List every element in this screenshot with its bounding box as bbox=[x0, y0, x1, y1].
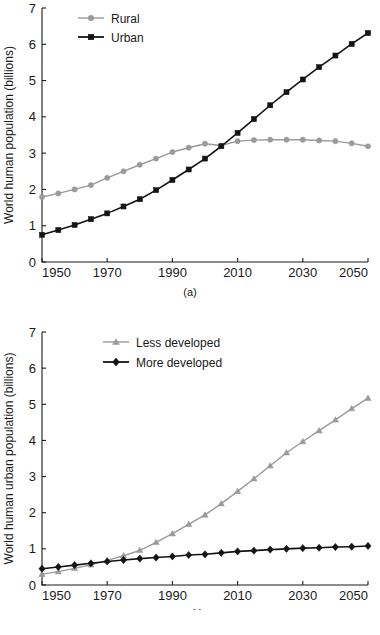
data-point-diamond-marker bbox=[153, 554, 159, 561]
y-axis-tick-label: 3 bbox=[29, 469, 36, 484]
y-axis-tick-label: 0 bbox=[29, 255, 36, 270]
chart-panel-a: 01234567195019701990201020302050YearWorl… bbox=[0, 0, 380, 310]
x-axis-title: Year bbox=[193, 607, 217, 610]
data-point-circle-marker bbox=[137, 162, 142, 167]
data-point-circle-marker bbox=[202, 141, 207, 146]
data-point-diamond-marker bbox=[349, 543, 355, 550]
legend-label-2: More developed bbox=[136, 356, 222, 370]
data-point-circle-marker bbox=[88, 15, 94, 21]
data-point-square-marker bbox=[366, 31, 371, 36]
data-point-triangle-marker bbox=[365, 395, 371, 400]
data-point-square-marker bbox=[203, 156, 208, 161]
data-point-square-marker bbox=[88, 217, 93, 222]
data-point-square-marker bbox=[235, 130, 240, 135]
x-axis-tick-label: 1970 bbox=[93, 265, 122, 280]
series-line bbox=[42, 33, 368, 235]
y-axis-tick-label: 2 bbox=[29, 505, 36, 520]
data-point-diamond-marker bbox=[39, 565, 45, 572]
legend-label-2: Urban bbox=[111, 31, 144, 45]
panel-a-caption: (a) bbox=[0, 286, 380, 298]
data-point-circle-marker bbox=[333, 139, 338, 144]
data-point-square-marker bbox=[40, 232, 45, 237]
x-axis-tick-label: 1970 bbox=[93, 588, 122, 603]
data-point-diamond-marker bbox=[186, 551, 192, 558]
data-point-square-marker bbox=[170, 177, 175, 182]
data-point-square-marker bbox=[300, 77, 305, 82]
data-point-diamond-marker bbox=[104, 558, 110, 565]
axis-spines bbox=[42, 8, 368, 262]
y-axis-tick-label: 7 bbox=[29, 325, 36, 340]
x-axis-tick-label: 1990 bbox=[158, 265, 187, 280]
data-point-square-marker bbox=[268, 103, 273, 108]
x-axis-tick-label: 2030 bbox=[288, 265, 317, 280]
y-axis-tick-label: 0 bbox=[29, 578, 36, 593]
legend-label-1: Less developed bbox=[136, 336, 220, 350]
data-point-triangle-marker bbox=[300, 438, 306, 443]
y-axis-title: World human population (billions) bbox=[2, 46, 16, 224]
data-point-square-marker bbox=[333, 53, 338, 58]
y-axis-tick-label: 5 bbox=[29, 397, 36, 412]
population-rural-urban-chart: 01234567195019701990201020302050YearWorl… bbox=[0, 0, 380, 285]
x-axis-tick-label: 1950 bbox=[42, 265, 71, 280]
y-axis-tick-label: 2 bbox=[29, 182, 36, 197]
legend: RuralUrban bbox=[78, 12, 144, 45]
data-point-diamond-marker bbox=[137, 555, 143, 562]
data-point-circle-marker bbox=[251, 137, 256, 142]
data-point-circle-marker bbox=[186, 145, 191, 150]
y-axis-tick-label: 7 bbox=[29, 1, 36, 16]
data-point-circle-marker bbox=[105, 175, 110, 180]
x-axis-tick-label: 1990 bbox=[158, 588, 187, 603]
data-point-circle-marker bbox=[154, 156, 159, 161]
data-point-square-marker bbox=[349, 41, 354, 46]
x-axis-tick-label: 2010 bbox=[223, 588, 252, 603]
data-point-diamond-marker bbox=[113, 358, 120, 366]
y-axis-tick-label: 6 bbox=[29, 361, 36, 376]
data-point-diamond-marker bbox=[202, 551, 208, 558]
data-point-diamond-marker bbox=[235, 548, 241, 555]
data-point-circle-marker bbox=[235, 139, 240, 144]
data-point-diamond-marker bbox=[55, 563, 61, 570]
y-axis-tick-label: 3 bbox=[29, 146, 36, 161]
data-point-diamond-marker bbox=[218, 549, 224, 556]
data-point-triangle-marker bbox=[186, 521, 192, 526]
data-point-square-marker bbox=[56, 228, 61, 233]
y-axis-tick-label: 1 bbox=[29, 218, 36, 233]
data-point-square-marker bbox=[121, 204, 126, 209]
y-axis-title: World human urban population (billions) bbox=[2, 353, 16, 565]
data-point-diamond-marker bbox=[316, 544, 322, 551]
data-point-diamond-marker bbox=[251, 547, 257, 554]
data-point-square-marker bbox=[88, 34, 93, 39]
series-line bbox=[42, 140, 368, 197]
y-axis-tick-label: 5 bbox=[29, 73, 36, 88]
y-axis-tick-label: 4 bbox=[29, 109, 36, 124]
data-point-diamond-marker bbox=[300, 545, 306, 552]
data-point-square-marker bbox=[317, 65, 322, 70]
data-point-diamond-marker bbox=[365, 542, 371, 549]
data-point-diamond-marker bbox=[332, 543, 338, 550]
data-point-circle-marker bbox=[349, 141, 354, 146]
data-point-circle-marker bbox=[284, 137, 289, 142]
series-urban bbox=[40, 31, 371, 238]
data-point-diamond-marker bbox=[267, 546, 273, 553]
data-point-circle-marker bbox=[121, 169, 126, 174]
data-point-square-marker bbox=[186, 167, 191, 172]
data-point-circle-marker bbox=[268, 137, 273, 142]
data-point-square-marker bbox=[72, 222, 77, 227]
data-point-circle-marker bbox=[39, 194, 44, 199]
legend: Less developedMore developed bbox=[103, 336, 222, 370]
y-axis-tick-label: 4 bbox=[29, 433, 36, 448]
data-point-square-marker bbox=[154, 188, 159, 193]
data-point-square-marker bbox=[284, 90, 289, 95]
y-axis-tick-label: 1 bbox=[29, 541, 36, 556]
x-axis-tick-label: 1950 bbox=[42, 588, 71, 603]
urban-population-development-chart: 01234567195019701990201020302050YearWorl… bbox=[0, 310, 380, 610]
data-point-triangle-marker bbox=[316, 428, 322, 433]
legend-label-1: Rural bbox=[111, 12, 140, 26]
data-point-square-marker bbox=[219, 144, 224, 149]
data-point-diamond-marker bbox=[169, 553, 175, 560]
x-axis-tick-label: 2010 bbox=[223, 265, 252, 280]
data-point-circle-marker bbox=[300, 137, 305, 142]
series-rural bbox=[39, 137, 370, 200]
data-point-diamond-marker bbox=[283, 545, 289, 552]
data-point-square-marker bbox=[137, 197, 142, 202]
